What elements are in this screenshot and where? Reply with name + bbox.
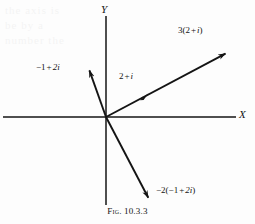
label-operator: + — [191, 25, 196, 35]
vector-label-3-times-2-plus-i: 3(2+i) — [178, 26, 203, 35]
label-operator: + — [125, 71, 130, 81]
figure-caption: Fig. 10.3.3 — [0, 206, 255, 216]
label-coefficient: −2(−1 — [156, 185, 178, 195]
figure-10-3-3: the axis is be by a number the Y X 3( — [0, 0, 255, 224]
x-axis-label: X — [239, 109, 246, 120]
label-imaginary-unit: i — [131, 71, 134, 81]
vector-label-minus-2-times-minus-1-plus-2i: −2(−1+2i) — [156, 186, 195, 195]
vector-label-2-plus-i: 2+i — [119, 72, 133, 81]
vector-minus-1-plus-2i-arrow — [89, 70, 106, 117]
vector-label-minus-1-plus-2i: −1+2i — [36, 63, 60, 72]
vector-minus-2-times-minus-1-plus-2i-arrow — [106, 117, 148, 198]
y-axis-label: Y — [101, 4, 107, 15]
vector-3-times-2-plus-i-arrow — [106, 54, 226, 117]
label-operator: + — [179, 185, 184, 195]
label-operator: + — [47, 62, 52, 72]
label-coefficient: 3(2 — [178, 25, 190, 35]
label-close-paren: ) — [200, 25, 203, 35]
label-imaginary-part: 2i — [53, 62, 60, 72]
label-real-part: −1 — [36, 62, 46, 72]
argand-diagram — [0, 0, 255, 224]
caption-number: 10.3.3 — [124, 206, 148, 216]
label-real-part: 2 — [119, 71, 124, 81]
caption-prefix: Fig. — [107, 206, 121, 216]
label-close-paren: ) — [192, 185, 195, 195]
